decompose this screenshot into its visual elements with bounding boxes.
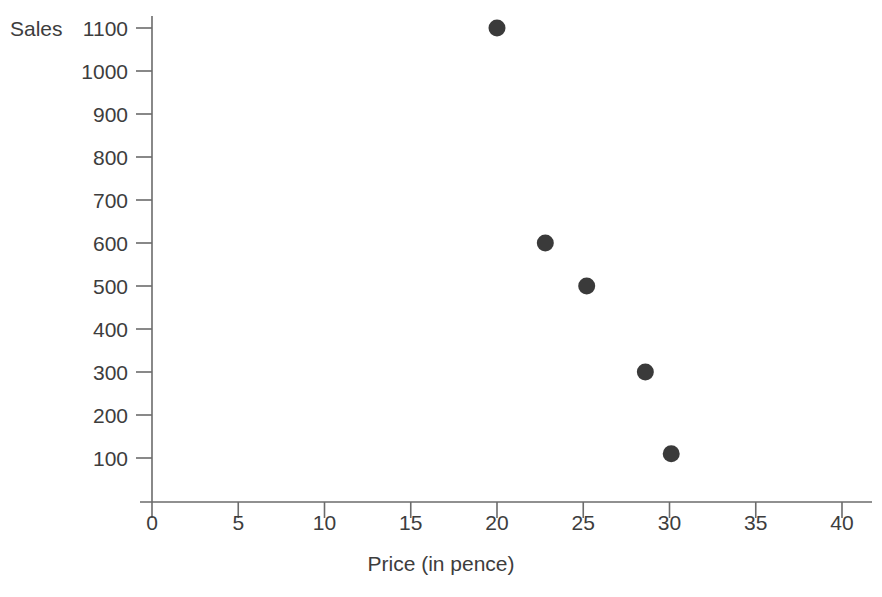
y-tick-label: 700 (0, 190, 128, 211)
y-axis (136, 16, 152, 502)
x-tick-label: 35 (744, 512, 767, 533)
data-point-group (489, 20, 680, 463)
x-tick-label: 20 (485, 512, 508, 533)
x-tick-label: 40 (830, 512, 853, 533)
y-tick-label: 900 (0, 104, 128, 125)
x-axis-title: Price (in pence) (367, 553, 514, 574)
x-tick-label: 10 (313, 512, 336, 533)
data-point (489, 20, 506, 37)
y-tick-label: 500 (0, 276, 128, 297)
y-tick-label: 600 (0, 233, 128, 254)
y-tick-label: 400 (0, 319, 128, 340)
data-point (578, 278, 595, 295)
y-axis-title: Sales (10, 18, 63, 39)
y-tick-label: 100 (0, 448, 128, 469)
data-point (637, 364, 654, 381)
y-tick-marks (136, 28, 152, 458)
plot-area (0, 0, 882, 597)
y-tick-label: 800 (0, 147, 128, 168)
y-tick-label: 200 (0, 405, 128, 426)
x-tick-label: 5 (232, 512, 244, 533)
x-tick-label: 0 (146, 512, 158, 533)
y-tick-label: 300 (0, 362, 128, 383)
x-tick-label: 30 (658, 512, 681, 533)
data-point (537, 235, 554, 252)
data-point (663, 445, 680, 462)
x-tick-label: 25 (572, 512, 595, 533)
x-tick-label: 15 (399, 512, 422, 533)
y-tick-label: 1000 (0, 61, 128, 82)
scatter-chart: 10020030040050060070080090010001100 0510… (0, 0, 882, 597)
